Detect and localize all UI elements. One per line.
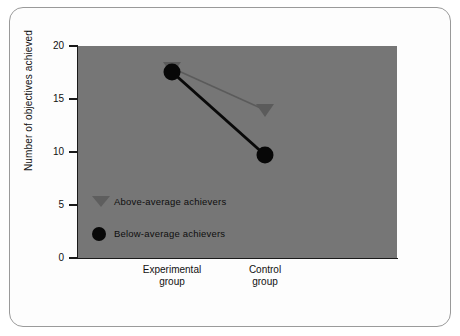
marker-below-average-experimental [164,64,181,81]
triangle-down-marker-icon [88,192,114,210]
legend-label-above-average: Above-average achievers [114,196,226,207]
legend-item-above-average: Above-average achievers [88,190,226,212]
circle-marker-icon [88,224,114,242]
x-axis-label-control-line2: group [205,276,325,288]
y-axis-title: Number of objectives achieved [23,21,34,181]
y-tick-label-10: 10 [42,147,64,157]
legend-item-below-average: Below-average achievers [88,222,226,244]
y-tick-label-20: 20 [42,41,64,51]
y-tick-label-0: 0 [42,253,64,263]
line-chart: Number of objectives achieved 0 5 10 15 … [0,0,460,336]
y-tick-label-5: 5 [42,200,64,210]
series-line-below-average [172,72,265,155]
y-tick-label-15: 15 [42,94,64,104]
marker-below-average-control [257,147,274,164]
x-axis-label-control: Control group [205,264,325,288]
x-axis-label-control-line1: Control [249,264,281,275]
x-axis-line [77,258,398,259]
series-line-above-average [172,68,265,110]
x-axis-label-experimental-line1: Experimental [143,264,201,275]
plot-area: Above-average achievers Below-average ac… [78,46,397,258]
marker-above-average-control [256,104,274,117]
chart-legend: Above-average achievers Below-average ac… [88,190,226,244]
legend-label-below-average: Below-average achievers [114,228,225,239]
